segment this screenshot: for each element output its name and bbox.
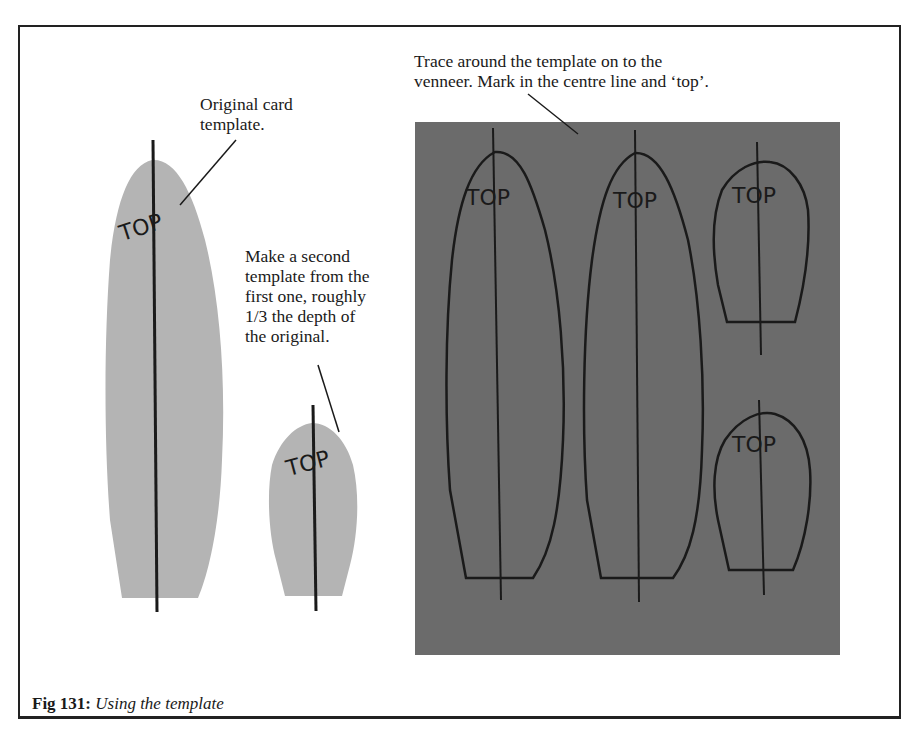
illustration: TOP TOP TOP TOP TOP	[0, 0, 915, 738]
small-card-template: TOP	[269, 365, 357, 611]
figure-caption: Fig 131: Using the template	[32, 694, 224, 714]
annotation-trace-instructions: Trace around the template on to the venn…	[414, 51, 709, 91]
pointer-line-second	[318, 365, 339, 432]
svg-text:TOP: TOP	[465, 185, 510, 210]
figure-title: Using the template	[95, 694, 223, 713]
figure-number: Fig 131:	[32, 694, 91, 713]
annotation-second-template: Make a second template from the first on…	[245, 246, 369, 346]
svg-text:TOP: TOP	[612, 188, 657, 213]
annotation-original-template: Original card template.	[200, 94, 293, 134]
large-card-template: TOP	[106, 140, 237, 612]
svg-text:TOP: TOP	[731, 432, 776, 457]
svg-text:TOP: TOP	[731, 183, 776, 208]
veneer-sheet: TOP TOP TOP TOP	[415, 94, 840, 655]
pointer-line-original	[180, 140, 236, 205]
